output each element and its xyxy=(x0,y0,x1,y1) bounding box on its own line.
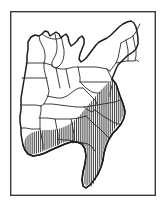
eastern-us-map: Eastern United States distribution map O… xyxy=(0,0,166,207)
figure-root: Eastern United States distribution map O… xyxy=(0,0,166,207)
